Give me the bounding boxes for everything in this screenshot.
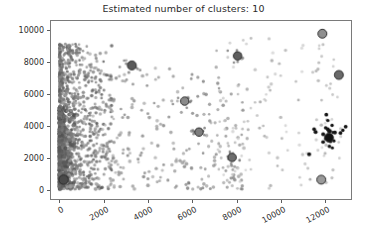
y-tick-mark [47, 62, 50, 63]
x-tick-mark [281, 200, 282, 203]
plot-axes-area [50, 20, 352, 200]
scatter-canvas [51, 21, 351, 199]
x-tick-mark [104, 200, 105, 203]
x-tick-mark [192, 200, 193, 203]
x-tick-label: 0 [7, 205, 66, 232]
y-tick-label: 2000 [0, 153, 44, 162]
y-tick-mark [47, 126, 50, 127]
y-tick-mark [47, 190, 50, 191]
x-tick-mark [59, 200, 60, 203]
y-tick-label: 4000 [0, 121, 44, 130]
y-tick-mark [47, 94, 50, 95]
y-tick-mark [47, 30, 50, 31]
y-tick-label: 6000 [0, 89, 44, 98]
scatter-plot-figure: Estimated number of clusters: 10 0200040… [0, 0, 367, 232]
x-tick-mark [325, 200, 326, 203]
y-tick-mark [47, 158, 50, 159]
x-tick-mark [237, 200, 238, 203]
y-tick-label: 8000 [0, 57, 44, 66]
x-tick-mark [148, 200, 149, 203]
y-tick-label: 10000 [0, 25, 44, 34]
y-tick-label: 0 [0, 186, 44, 195]
chart-title: Estimated number of clusters: 10 [0, 3, 367, 14]
